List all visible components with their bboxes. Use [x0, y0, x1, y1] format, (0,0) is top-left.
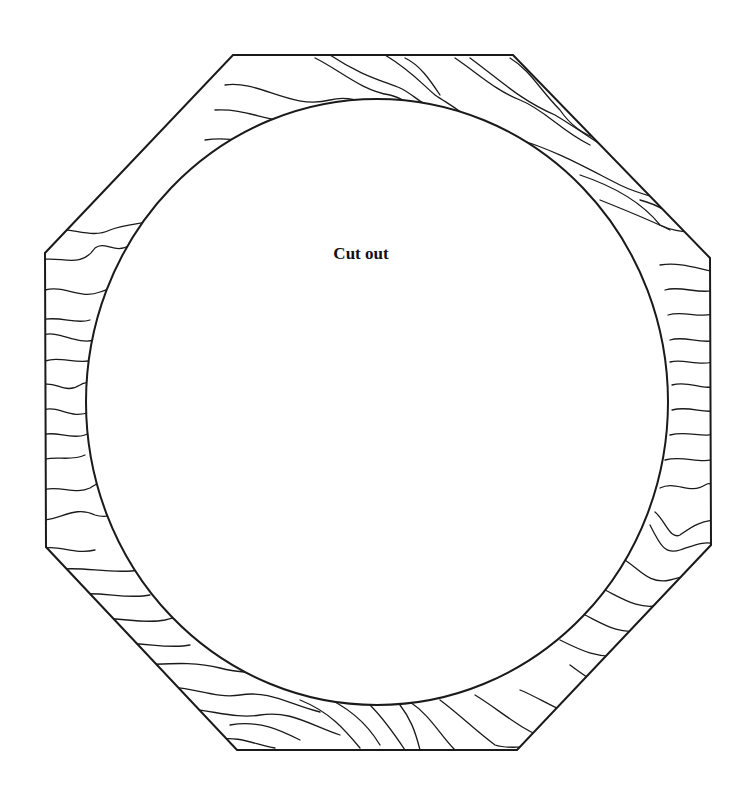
cut-out-label: Cut out	[0, 244, 738, 264]
cut-out-label-text: Cut out	[333, 244, 388, 263]
diagram-canvas	[0, 0, 738, 795]
cut-out-circle	[86, 99, 668, 705]
wood-ring-diagram: Cut out	[0, 0, 738, 795]
